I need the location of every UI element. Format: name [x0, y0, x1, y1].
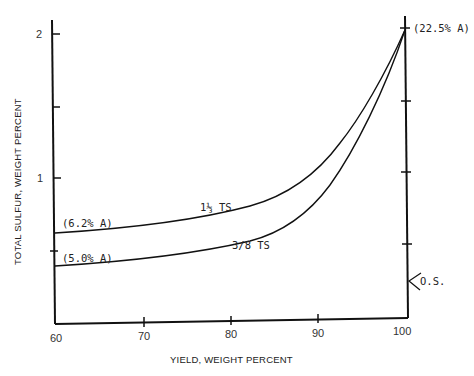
lower-curve-start-label: (5.0% A) — [62, 252, 113, 264]
sulfur-yield-chart: 2 1 60 70 80 90 100 YIELD, WEIGHT PERCEN… — [0, 0, 474, 376]
x-axis-title: YIELD, WEIGHT PERCENT — [170, 354, 293, 365]
x-tick-label-80: 80 — [225, 328, 237, 340]
axes — [52, 16, 408, 324]
x-tick-label-90: 90 — [312, 327, 324, 339]
y-tick-label-2: 2 — [36, 28, 42, 40]
upper-curve-start-label: (6.2% A) — [62, 217, 113, 229]
upper-curve-label: 1⅓ TS — [200, 201, 232, 213]
os-marker: O.S. — [409, 273, 445, 290]
end-point-label: (22.5% A) — [413, 22, 470, 34]
y-tick-label-1: 1 — [37, 172, 43, 184]
os-marker-label: O.S. — [420, 275, 445, 287]
y-axis-right — [405, 16, 408, 318]
x-tick-label-100: 100 — [393, 325, 411, 337]
curve-3-8-ts — [55, 30, 405, 266]
x-tick-label-70: 70 — [138, 330, 150, 342]
y-axis-left — [52, 20, 55, 324]
lower-curve-label: 3/8 TS — [232, 239, 270, 251]
x-tick-label-60: 60 — [50, 332, 62, 344]
y-axis-title: TOTAL SULFUR, WEIGHT PERCENT — [12, 98, 23, 265]
